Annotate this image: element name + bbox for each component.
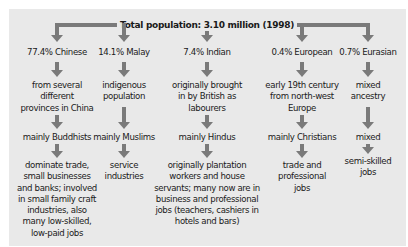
arrow-down-icon	[118, 107, 130, 129]
religion-chinese: mainly Buddhists	[23, 132, 92, 143]
origin-eurasian: mixed ancestry	[351, 80, 385, 103]
arrow-down-icon	[296, 115, 308, 129]
origin-chinese: from several different provinces in Chin…	[20, 80, 93, 114]
arrow-down-icon	[51, 144, 63, 158]
occupation-european: trade and professional jobs	[278, 160, 326, 194]
group-label-european: 0.4% European	[272, 47, 333, 58]
group-label-indian: 7.4% Indian	[183, 47, 230, 58]
origin-european: early 19th century from north-west Europ…	[265, 80, 338, 114]
arrow-down-icon	[296, 144, 308, 158]
arrow-down-icon	[362, 107, 374, 129]
origin-malay: indigenous population	[102, 80, 146, 103]
occupation-chinese: dominate trade, small businesses and ban…	[17, 160, 97, 239]
arrow-down-icon	[296, 62, 308, 77]
arrow-down-icon	[51, 23, 63, 42]
group-label-eurasian: 0.7% Eurasian	[339, 47, 396, 58]
religion-eurasian: mixed	[356, 132, 381, 143]
group-label-malay: 14.1% Malay	[98, 47, 150, 58]
occupation-eurasian: semi-skilled jobs	[345, 156, 392, 179]
occupation-indian: originally plantation workers and house …	[154, 160, 260, 228]
arrow-down-icon	[118, 144, 130, 158]
group-label-chinese: 77.4% Chinese	[27, 47, 87, 58]
arrow-down-icon	[362, 23, 374, 42]
arrow-down-icon	[51, 115, 63, 129]
arrow-down-icon	[201, 144, 213, 158]
religion-european: mainly Christians	[268, 132, 337, 143]
occupation-malay: service industries	[105, 160, 144, 183]
arrow-down-icon	[362, 62, 374, 77]
religion-malay: mainly Muslims	[93, 132, 155, 143]
arrow-down-icon	[201, 62, 213, 77]
arrow-down-icon	[201, 31, 213, 42]
arrow-down-icon	[51, 62, 63, 77]
total-population-title: Total population: 3.10 million (1998)	[117, 20, 297, 30]
arrow-down-icon	[118, 62, 130, 77]
origin-indian: originally brought in by British as labo…	[172, 80, 242, 114]
arrow-down-icon	[118, 23, 130, 42]
arrow-down-icon	[296, 23, 308, 42]
religion-indian: mainly Hindus	[179, 132, 236, 143]
arrow-down-icon	[362, 144, 374, 154]
arrow-down-icon	[201, 115, 213, 129]
